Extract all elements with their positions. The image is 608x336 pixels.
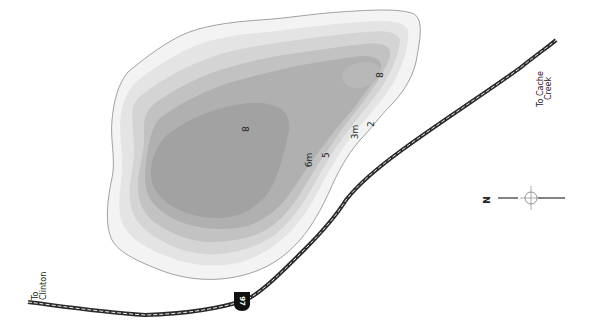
depth-label-2: 2 (366, 121, 376, 127)
north-arrow-icon: N (482, 186, 565, 210)
highway-number: 97 (238, 296, 246, 306)
depth-label-6m: 6m (304, 153, 314, 168)
highway-shield-icon: 97 (234, 292, 250, 311)
lake-map: 8 8 6m 5 3m 2 97 To Clinton To Cache Cre… (0, 0, 608, 336)
destination-cache-creek: To Cache Creek (536, 71, 553, 108)
destination-clinton: To Clinton (31, 272, 48, 301)
destination-cache-creek-line2: Creek (544, 76, 553, 100)
depth-label-8-center: 8 (240, 126, 250, 132)
north-label: N (482, 196, 492, 204)
depth-label-5: 5 (321, 152, 331, 158)
depth-label-3m: 3m (350, 125, 360, 140)
lake (107, 10, 420, 279)
destination-clinton-line2: Clinton (39, 272, 48, 300)
depth-label-8-north: 8 (374, 72, 384, 78)
